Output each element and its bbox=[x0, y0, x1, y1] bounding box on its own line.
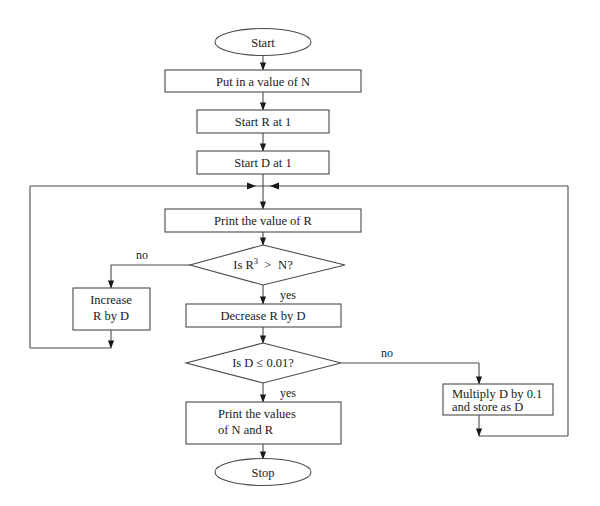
node-decrease-r: Decrease R by D bbox=[186, 304, 341, 327]
node-test-d: Is D ≤ 0.01? bbox=[186, 343, 341, 383]
node-multiply-d: Multiply D by 0.1 and store as D bbox=[443, 384, 553, 415]
node-start-label: Start bbox=[251, 36, 275, 50]
test-cube-prefix: Is R bbox=[233, 258, 254, 272]
node-start-d: Start D at 1 bbox=[197, 151, 329, 174]
node-multiply-d-line2: and store as D bbox=[452, 400, 523, 414]
node-multiply-d-line1: Multiply D by 0.1 bbox=[452, 387, 542, 401]
node-test-cube: Is R3>N? bbox=[190, 245, 345, 285]
test-cube-exponent: 3 bbox=[254, 256, 258, 266]
node-increase-r-line1: Increase bbox=[90, 293, 132, 307]
merge-arrow-left bbox=[247, 183, 256, 190]
node-print-r-label: Print the value of R bbox=[214, 214, 313, 228]
branch-label-d-no: no bbox=[381, 346, 393, 360]
node-increase-r: Increase R by D bbox=[73, 288, 150, 330]
node-print-r: Print the value of R bbox=[165, 209, 361, 232]
node-stop: Stop bbox=[215, 459, 311, 486]
node-stop-label: Stop bbox=[252, 466, 275, 480]
node-decrease-r-label: Decrease R by D bbox=[220, 309, 305, 323]
node-print-values-line1: Print the values bbox=[218, 407, 296, 421]
node-test-d-label: Is D ≤ 0.01? bbox=[232, 356, 294, 370]
node-start-r-label: Start R at 1 bbox=[235, 115, 292, 129]
test-cube-operator: > bbox=[264, 258, 271, 272]
branch-label-d-yes: yes bbox=[280, 386, 296, 400]
flowchart-diagram: Start Put in a value of N Start R at 1 S… bbox=[0, 0, 600, 506]
node-print-values-line2: of N and R bbox=[218, 423, 274, 437]
node-input-n: Put in a value of N bbox=[165, 70, 361, 92]
test-cube-operand: N? bbox=[278, 258, 293, 272]
node-test-cube-label: Is R3>N? bbox=[233, 256, 293, 272]
node-input-n-label: Put in a value of N bbox=[216, 75, 310, 89]
node-start-d-label: Start D at 1 bbox=[234, 156, 291, 170]
branch-label-cube-no: no bbox=[136, 248, 148, 262]
node-start-r: Start R at 1 bbox=[197, 110, 329, 133]
node-print-values: Print the values of N and R bbox=[186, 402, 341, 444]
node-increase-r-line2: R by D bbox=[93, 309, 129, 323]
node-start: Start bbox=[215, 29, 311, 56]
branch-label-cube-yes: yes bbox=[280, 288, 296, 302]
merge-arrow-right bbox=[270, 183, 279, 190]
